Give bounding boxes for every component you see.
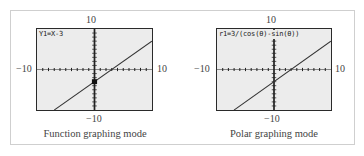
caption: Polar graphing mode — [214, 128, 334, 140]
ymin-label: −10 — [86, 114, 102, 124]
graph-line — [234, 41, 331, 110]
trace-cursor — [92, 79, 97, 84]
polar-mode-panel: 10 −10 10 −10 r1=3/(cos(θ)-sin(θ)) Polar… — [182, 0, 364, 156]
xmax-label: 10 — [335, 64, 345, 74]
calculator-screen: r1=3/(cos(θ)-sin(θ)) — [216, 28, 332, 111]
xmax-label: 10 — [157, 64, 167, 74]
calculator-screen: Y1=X-3 — [36, 28, 153, 111]
ymin-label: −10 — [264, 114, 280, 124]
ymax-label: 10 — [86, 15, 96, 25]
caption: Function graphing mode — [34, 128, 156, 140]
function-mode-panel: 10 −10 10 −10 Y1=X-3 Function graphing m… — [0, 0, 182, 156]
equation-label: Y1=X-3 — [39, 30, 64, 39]
graph-plot — [217, 29, 331, 110]
xmin-label: −10 — [16, 64, 32, 74]
graph-plot — [37, 29, 152, 110]
ymax-label: 10 — [266, 15, 276, 25]
equation-label: r1=3/(cos(θ)-sin(θ)) — [219, 30, 300, 39]
xmin-label: −10 — [194, 64, 210, 74]
graph-line — [54, 41, 152, 110]
